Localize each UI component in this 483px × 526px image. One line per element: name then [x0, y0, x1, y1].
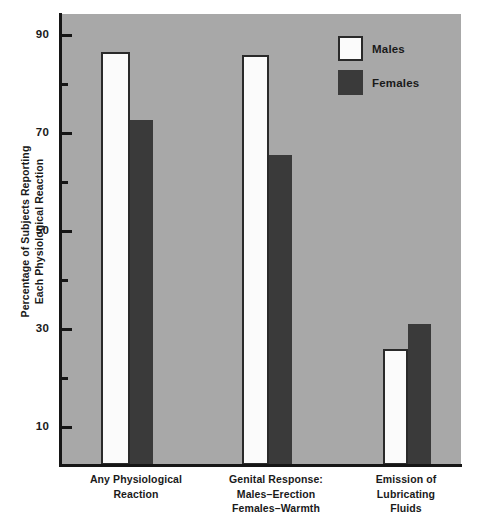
plot-area: Males Females — [61, 14, 461, 465]
y-tick-label-30: 30 — [9, 322, 49, 334]
x-axis-label-group-2: Genital Response: Males–Erection Females… — [196, 472, 356, 516]
y-tick-30 — [61, 328, 72, 331]
y-tick-40 — [61, 279, 68, 282]
legend-item-males: Males — [338, 36, 405, 61]
y-tick-60 — [61, 181, 68, 184]
bar-females-group-2 — [269, 155, 292, 465]
y-tick-70 — [61, 132, 72, 135]
x-axis-label-group-1: Any Physiological Reaction — [56, 472, 216, 501]
legend-label-males: Males — [372, 43, 405, 55]
y-tick-label-10: 10 — [9, 420, 49, 432]
y-tick-90 — [61, 34, 72, 37]
x-axis-label-group-3: Emission of Lubricating Fluids — [336, 472, 476, 516]
y-tick-label-70: 70 — [9, 126, 49, 138]
bar-males-group-1 — [101, 52, 130, 465]
legend-swatch-females-icon — [338, 70, 363, 95]
y-tick-80 — [61, 83, 68, 86]
legend-item-females: Females — [338, 70, 419, 95]
bar-males-group-2 — [242, 55, 269, 465]
y-tick-10 — [61, 426, 72, 429]
y-axis-line — [59, 13, 62, 466]
bar-females-group-1 — [130, 120, 153, 465]
bar-chart-figure: Percentage of Subjects Reporting Each Ph… — [0, 0, 483, 526]
y-tick-label-50: 50 — [9, 224, 49, 236]
legend-label-females: Females — [372, 77, 419, 89]
y-tick-20 — [61, 377, 68, 380]
y-tick-50 — [61, 230, 72, 233]
x-axis-line — [59, 464, 462, 467]
legend-swatch-males-icon — [338, 36, 363, 61]
bar-males-group-3 — [383, 349, 408, 465]
y-tick-label-90: 90 — [9, 28, 49, 40]
bar-females-group-3 — [408, 324, 431, 465]
